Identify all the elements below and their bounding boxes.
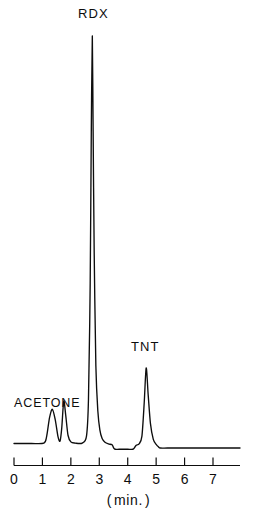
x-axis-tick-label: 1	[32, 471, 52, 487]
x-axis-title-open-paren: (	[105, 492, 114, 508]
x-axis-title-close-paren: )	[143, 492, 152, 508]
x-axis-title-text: min.	[114, 492, 143, 508]
x-axis-tick-label: 7	[203, 471, 223, 487]
x-axis-tick-label: 0	[4, 471, 24, 487]
chromatogram-plot	[0, 0, 257, 517]
x-axis-tick-label: 3	[89, 471, 109, 487]
peak-label-tnt: TNT	[131, 339, 160, 354]
chromatogram-trace-line	[14, 36, 240, 449]
x-axis-tick-label: 2	[61, 471, 81, 487]
chromatogram-figure: RDX TNT ACETONE 01234567 (min.)	[0, 0, 257, 517]
x-axis-tick-label: 5	[146, 471, 166, 487]
peak-label-acetone: ACETONE	[14, 396, 81, 410]
peak-label-rdx: RDX	[78, 6, 109, 21]
x-axis-ticks	[14, 458, 213, 466]
x-axis-tick-label: 4	[118, 471, 138, 487]
x-axis-tick-label: 6	[175, 471, 195, 487]
x-axis-title: (min.)	[0, 492, 257, 508]
